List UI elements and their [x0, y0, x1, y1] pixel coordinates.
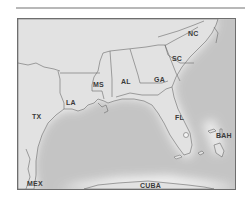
label-ga: GA [154, 76, 165, 83]
top-divider [16, 7, 245, 9]
southeast-us-map: NC SC GA AL MS LA TX FL BAH MEX CUBA [17, 18, 236, 190]
label-bah: BAH [216, 132, 232, 139]
label-sc: SC [172, 55, 182, 62]
label-cuba: CUBA [140, 182, 161, 189]
label-al: AL [121, 78, 131, 85]
label-nc: NC [188, 30, 199, 37]
label-tx: TX [32, 113, 41, 120]
label-la: LA [66, 99, 76, 106]
map-graphic [18, 19, 235, 189]
label-ms: MS [93, 81, 104, 88]
label-mex: MEX [27, 180, 43, 187]
label-fl: FL [175, 114, 184, 121]
